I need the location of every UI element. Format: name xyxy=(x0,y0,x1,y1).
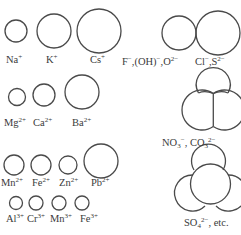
ca-ion-circle xyxy=(33,84,55,106)
mg-label: Mg2+ xyxy=(4,118,26,129)
f-oh-o-label: F−,(OH)−,O2− xyxy=(122,57,178,68)
ba-label: Ba2+ xyxy=(72,118,91,129)
f-ion-circle xyxy=(162,16,196,50)
k-ion-circle xyxy=(37,14,71,48)
k-label: K+ xyxy=(46,55,58,66)
ca-label: Ca2+ xyxy=(33,118,52,129)
so4-label: SO42−, etc. xyxy=(184,218,229,229)
mg-ion-circle xyxy=(9,89,26,106)
fe2-label: Fe2+ xyxy=(32,178,50,189)
mn2-label: Mn2+ xyxy=(1,178,23,189)
ba-ion-circle xyxy=(65,75,99,109)
cr-label: Cr3+ xyxy=(27,214,45,225)
zn-label: Zn2+ xyxy=(59,178,78,189)
so4-molecule-shape xyxy=(175,144,241,211)
na-ion-circle xyxy=(5,20,27,42)
no3-co3-molecule-shape xyxy=(182,68,241,130)
cl-s-label: Cl−,S2− xyxy=(195,57,225,68)
al-ion-circle xyxy=(10,197,23,210)
fe2-ion-circle xyxy=(31,155,51,175)
cs-label: Cs+ xyxy=(90,55,105,66)
na-label: Na+ xyxy=(6,55,22,66)
no3-co3-label: NO3−, CO32− xyxy=(162,138,215,149)
mn2-ion-circle xyxy=(4,155,24,175)
fe3-label: Fe3+ xyxy=(80,214,98,225)
cr-ion-circle xyxy=(29,196,43,210)
cl-ion-circle xyxy=(196,11,240,55)
mn3-ion-circle xyxy=(52,196,66,210)
cs-ion-circle xyxy=(77,9,121,53)
fe3-ion-circle xyxy=(75,196,89,210)
zn-ion-circle xyxy=(59,156,77,174)
pb-ion-circle xyxy=(84,144,118,178)
pb-label: Pb2+ xyxy=(91,178,110,189)
mn3-label: Mn3+ xyxy=(50,214,72,225)
al-label: Al3+ xyxy=(6,214,24,225)
